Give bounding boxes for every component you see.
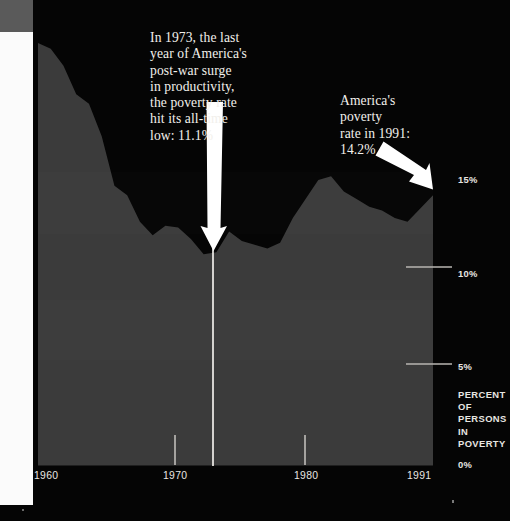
y-axis-label-15: 15% [458,174,478,185]
y-axis-label-10: 10% [458,268,478,279]
poverty-rate-chart-figure: In 1973, the last year of America's post… [0,0,510,521]
annotation-text-1973: In 1973, the last year of America's post… [150,30,300,144]
scan-band-lower [38,300,433,360]
y-axis-caption: PERCENT OF PERSONS IN POVERTY [458,389,507,450]
x-axis-label-1980: 1980 [294,470,318,481]
y-axis-label-5: 5% [458,361,472,372]
scan-band-upper [38,172,433,234]
x-axis-label-1970: 1970 [163,470,187,481]
annotation-text-1991: America's poverty rate in 1991: 14.2% [340,93,450,158]
y-axis-label-0: 0% [458,459,472,470]
x-axis-label-1991: 1991 [407,470,431,481]
x-axis-label-1960: 1960 [34,470,58,481]
